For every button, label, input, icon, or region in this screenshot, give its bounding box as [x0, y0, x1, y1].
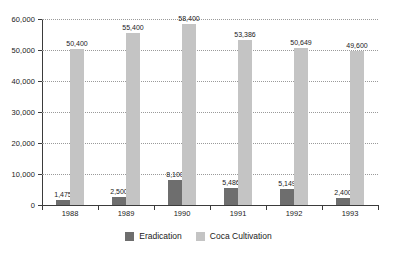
legend-label: Coca Cultivation — [210, 231, 272, 241]
bar-value-label-coca-cultivation-1990: 58,400 — [178, 15, 199, 22]
x-axis-tick-mark — [322, 205, 323, 210]
y-axis-tick-label: 20,000 — [11, 139, 35, 148]
bar-value-label-coca-cultivation-1991: 53,386 — [234, 31, 255, 38]
bar-coca-cultivation-1993 — [350, 51, 364, 205]
bar-eradication-1990 — [168, 180, 182, 205]
y-axis-tick-label: 40,000 — [11, 77, 35, 86]
bar-coca-cultivation-1990 — [182, 24, 196, 205]
bar-coca-cultivation-1989 — [126, 33, 140, 205]
bar-value-label-coca-cultivation-1988: 50,400 — [66, 40, 87, 47]
x-axis-tick-mark — [42, 205, 43, 210]
gridline — [42, 81, 378, 82]
x-axis-tick-label-1992: 1992 — [286, 209, 303, 218]
y-axis-tick-mark — [38, 81, 42, 82]
chart-legend: EradicationCoca Cultivation — [0, 231, 397, 241]
x-axis-tick-label-1993: 1993 — [342, 209, 359, 218]
gridline — [42, 50, 378, 51]
y-axis-tick-label: 30,000 — [11, 108, 35, 117]
bar-value-label-coca-cultivation-1993: 49,600 — [346, 42, 367, 49]
x-axis-tick-mark — [154, 205, 155, 210]
bar-eradication-1993 — [336, 198, 350, 205]
bar-eradication-1988 — [56, 200, 70, 205]
y-axis-tick-mark — [38, 143, 42, 144]
x-axis-tick-label-1988: 1988 — [62, 209, 79, 218]
legend-item-eradication[interactable]: Eradication — [125, 231, 182, 241]
y-axis-tick-mark — [38, 50, 42, 51]
bar-eradication-1991 — [224, 188, 238, 205]
x-axis-tick-label-1991: 1991 — [230, 209, 247, 218]
x-axis-tick-mark — [266, 205, 267, 210]
gridline — [42, 174, 378, 175]
x-axis-tick-label-1989: 1989 — [118, 209, 135, 218]
y-axis-tick-mark — [38, 174, 42, 175]
x-axis-tick-label-1990: 1990 — [174, 209, 191, 218]
bar-eradication-1989 — [112, 197, 126, 205]
y-axis-tick-mark — [38, 19, 42, 20]
y-axis-tick-label: 50,000 — [11, 46, 35, 55]
bar-coca-cultivation-1988 — [70, 49, 84, 205]
x-axis-tick-mark — [378, 205, 379, 210]
gridline — [42, 112, 378, 113]
y-axis-tick-label: 60,000 — [11, 15, 35, 24]
gridline — [42, 19, 378, 20]
bar-value-label-coca-cultivation-1992: 50,649 — [290, 39, 311, 46]
bar-chart: 010,00020,00030,00040,00050,00060,0001,4… — [0, 0, 397, 256]
y-axis-tick-mark — [38, 112, 42, 113]
bar-eradication-1992 — [280, 189, 294, 205]
y-axis-tick-label: 10,000 — [11, 170, 35, 179]
legend-swatch-icon — [125, 232, 134, 241]
legend-label: Eradication — [139, 231, 182, 241]
bar-value-label-coca-cultivation-1989: 55,400 — [122, 24, 143, 31]
y-axis-tick-label: 0 — [31, 201, 35, 210]
gridline — [42, 143, 378, 144]
legend-item-coca-cultivation[interactable]: Coca Cultivation — [196, 231, 272, 241]
plot-area: 010,00020,00030,00040,00050,00060,0001,4… — [42, 19, 378, 205]
x-axis-tick-mark — [98, 205, 99, 210]
bar-coca-cultivation-1991 — [238, 40, 252, 205]
bar-coca-cultivation-1992 — [294, 48, 308, 205]
legend-swatch-icon — [196, 232, 205, 241]
x-axis-tick-mark — [210, 205, 211, 210]
